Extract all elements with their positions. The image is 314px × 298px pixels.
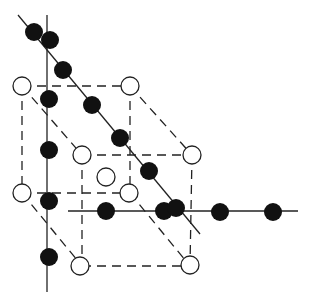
filled-atom (40, 248, 58, 266)
filled-atom (211, 203, 229, 221)
open-atom (71, 257, 89, 275)
open-atom (181, 256, 199, 274)
open-atom (120, 184, 138, 202)
lattice-diagram (0, 0, 314, 298)
filled-atom (41, 31, 59, 49)
filled-atom (97, 202, 115, 220)
filled-atom (83, 96, 101, 114)
filled-atom (40, 192, 58, 210)
open-atom (97, 168, 115, 186)
open-atom (73, 146, 91, 164)
filled-atom (40, 141, 58, 159)
filled-atom (167, 199, 185, 217)
filled-atom (40, 90, 58, 108)
filled-atoms (25, 23, 282, 266)
dashed-edge (130, 86, 192, 155)
atom-chain-lines (18, 15, 298, 292)
filled-atom (140, 162, 158, 180)
open-atom (13, 77, 31, 95)
filled-atom (111, 129, 129, 147)
open-atom (121, 77, 139, 95)
open-atom (13, 184, 31, 202)
filled-atom (25, 23, 43, 41)
filled-atom (264, 203, 282, 221)
filled-atom (54, 61, 72, 79)
open-atom (183, 146, 201, 164)
